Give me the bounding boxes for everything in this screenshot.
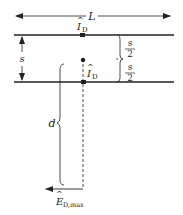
svg-text:2: 2 xyxy=(127,49,133,59)
svg-text:D,max: D,max xyxy=(63,201,84,209)
svg-text:2: 2 xyxy=(127,73,133,83)
distance-label: d xyxy=(48,117,55,130)
bottom-current-marker xyxy=(81,80,86,84)
midpoint-dot xyxy=(81,58,85,62)
length-label: L xyxy=(87,10,95,23)
spacing-label: s xyxy=(19,53,24,64)
svg-text:^: ^ xyxy=(87,62,94,71)
max-field-vector: E ^ D,max xyxy=(46,189,84,209)
top-current-label: I ^ D xyxy=(76,15,88,34)
svg-text:^: ^ xyxy=(77,15,84,24)
svg-text:s: s xyxy=(128,38,133,48)
svg-text:D: D xyxy=(82,26,88,34)
svg-text:s: s xyxy=(128,62,133,72)
svg-text:D: D xyxy=(92,73,98,81)
svg-text:^: ^ xyxy=(56,189,63,198)
bottom-current-label: I ^ D xyxy=(86,62,98,81)
half-spacing-braces: s 2 s 2 xyxy=(116,35,135,83)
length-dimension: L xyxy=(16,10,170,23)
spacing-dimension: s xyxy=(19,37,24,80)
two-wire-line-diagram: L I ^ D I ^ D s s 2 s 2 d xyxy=(0,0,183,215)
